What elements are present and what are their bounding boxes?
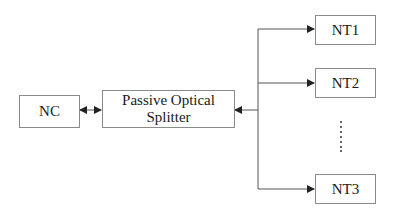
- nt3-label: NT3: [332, 181, 360, 198]
- nt3-node: NT3: [315, 174, 376, 204]
